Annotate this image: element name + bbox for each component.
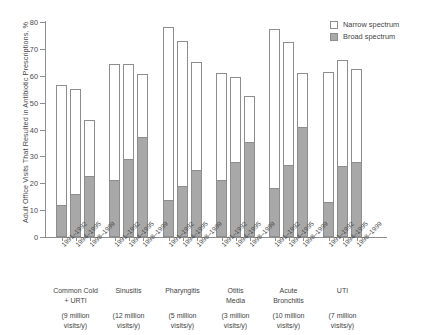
legend-item: Narrow spectrum xyxy=(330,20,399,29)
y-axis-tick-label: 70 xyxy=(4,45,38,54)
bar-stacked xyxy=(84,120,95,237)
bar-stacked xyxy=(109,64,120,237)
bar-stacked xyxy=(56,85,67,237)
y-axis-tick-label: 50 xyxy=(4,99,38,108)
bar-stacked xyxy=(323,72,334,237)
legend-swatch-narrow xyxy=(330,21,338,29)
legend-swatch-broad xyxy=(330,33,338,41)
legend-label: Broad spectrum xyxy=(343,32,395,41)
bar-stacked xyxy=(70,89,81,237)
chart-legend: Narrow spectrumBroad spectrum xyxy=(330,20,399,44)
bar-stacked xyxy=(230,77,241,237)
bar-stacked xyxy=(191,62,202,237)
bar-stacked xyxy=(244,96,255,237)
group-category-label: UTI xyxy=(309,286,377,296)
y-axis-tick-label: 40 xyxy=(4,126,38,135)
bar-segment-broad-spectrum xyxy=(138,137,147,236)
y-axis-tick-label: 60 xyxy=(4,72,38,81)
y-axis-tick-label: 20 xyxy=(4,179,38,188)
legend-label: Narrow spectrum xyxy=(343,20,399,29)
y-axis-tick-label: 0 xyxy=(4,233,38,242)
y-axis-tick-label: 30 xyxy=(4,152,38,161)
bar-segment-broad-spectrum xyxy=(324,202,333,236)
bar-stacked xyxy=(351,69,362,237)
bar-segment-broad-spectrum xyxy=(57,205,66,236)
bar-stacked xyxy=(297,73,308,237)
bar-segment-broad-spectrum xyxy=(298,127,307,236)
y-axis-tick-label: 80 xyxy=(4,18,38,27)
chart-figure: Adult Office Visits That Resulted in Ant… xyxy=(0,0,431,335)
y-axis-tick-label: 10 xyxy=(4,206,38,215)
legend-item: Broad spectrum xyxy=(330,32,399,41)
bar-stacked xyxy=(269,29,280,237)
bar-stacked xyxy=(283,42,294,237)
bar-stacked xyxy=(123,64,134,237)
bar-stacked xyxy=(163,27,174,237)
group-visits-label: (7 million visits/y) xyxy=(309,311,377,330)
bar-stacked xyxy=(216,73,227,237)
plot-area xyxy=(46,22,386,237)
bar-stacked xyxy=(177,41,188,237)
bar-stacked xyxy=(337,60,348,237)
bar-segment-broad-spectrum xyxy=(164,200,173,236)
bar-stacked xyxy=(137,74,148,237)
